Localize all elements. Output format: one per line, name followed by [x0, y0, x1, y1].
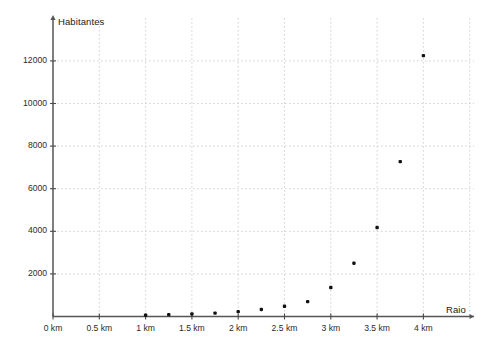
x-axis-title: Raio [446, 304, 466, 315]
x-tick-label: 4 km [393, 323, 453, 333]
data-point [399, 160, 402, 163]
y-tick-label: 10000 [23, 98, 47, 108]
data-point-series [144, 54, 425, 317]
data-point [352, 262, 355, 265]
y-tick-label: 8000 [28, 140, 47, 150]
data-point [260, 308, 263, 311]
y-tick-label: 2000 [28, 268, 47, 278]
y-axis-arrowhead [50, 15, 55, 20]
data-point [167, 313, 170, 316]
data-point [213, 311, 216, 314]
tick-marks [50, 61, 423, 320]
vertical-gridlines [99, 18, 469, 317]
horizontal-gridlines [53, 61, 474, 274]
scatter-chart: Habitantes Raio 200040006000800010000120… [0, 0, 496, 348]
y-tick-label: 6000 [28, 183, 47, 193]
data-point [306, 300, 309, 303]
x-axis-arrowhead [470, 314, 475, 319]
y-tick-label: 4000 [28, 225, 47, 235]
data-point [329, 286, 332, 289]
plot-area [0, 0, 496, 348]
data-point [190, 312, 193, 315]
data-point [144, 314, 147, 317]
data-point [375, 226, 378, 229]
data-point [422, 54, 425, 57]
y-tick-label: 12000 [23, 55, 47, 65]
data-point [283, 305, 286, 308]
data-point [237, 310, 240, 313]
y-axis-title: Habitantes [58, 16, 104, 27]
